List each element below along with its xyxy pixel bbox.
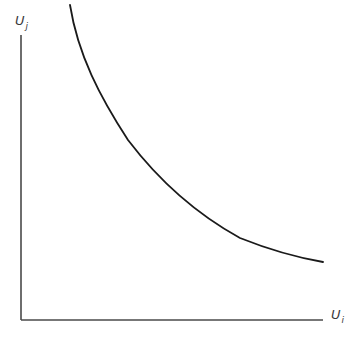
- y-axis-label-main: U: [15, 13, 25, 28]
- diagram-canvas: [0, 0, 357, 338]
- utility-curve: [70, 5, 323, 262]
- y-axis-label: Uj: [15, 14, 28, 31]
- utility-diagram: Uj Ui: [0, 0, 357, 338]
- x-axis-label-subscript: i: [342, 315, 345, 325]
- x-axis-label: Ui: [331, 308, 344, 325]
- x-axis-label-main: U: [331, 307, 341, 322]
- y-axis-label-subscript: j: [26, 21, 29, 31]
